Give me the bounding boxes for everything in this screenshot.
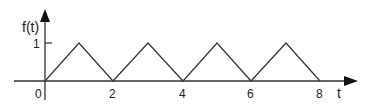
y-tick-label-1: 1 [33, 37, 40, 51]
x-tick-label-6: 6 [247, 87, 254, 101]
x-axis-label: t [337, 85, 341, 101]
triangle-wave-diagram: f(t) 1 0 2 4 6 8 t [0, 0, 373, 109]
y-axis-arrow-icon [40, 9, 50, 22]
x-tick-label-8: 8 [316, 87, 323, 101]
y-axis-label: f(t) [22, 19, 39, 35]
triangle-wave-line [45, 43, 320, 81]
x-tick-label-4: 4 [179, 87, 186, 101]
x-tick-label-2: 2 [109, 87, 116, 101]
x-tick-label-0: 0 [35, 87, 42, 101]
x-axis-arrow-icon [344, 76, 358, 86]
